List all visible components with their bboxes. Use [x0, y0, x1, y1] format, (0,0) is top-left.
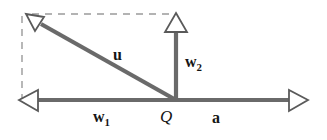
vector-a: [176, 90, 308, 111]
vector-diagram-figure: u w2 w1 a Q: [0, 0, 327, 140]
vector-label-w2-subscript: 2: [197, 61, 202, 73]
vector-a-arrowhead: [289, 90, 308, 111]
vector-label-w1: w1: [93, 109, 110, 128]
vector-label-w1-base: w: [93, 108, 105, 125]
vector-w2-arrowhead: [165, 13, 187, 32]
vector-u-arrowhead: [26, 14, 44, 31]
point-label-q: Q: [160, 108, 172, 125]
vector-label-w1-subscript: 1: [105, 116, 110, 128]
vector-label-u: u: [113, 47, 122, 63]
vector-label-a: a: [212, 110, 220, 126]
vector-w2: [165, 13, 187, 100]
vector-u-shaft: [41, 24, 176, 100]
vector-label-w2-base: w: [185, 53, 197, 70]
vector-label-w2: w2: [185, 54, 202, 73]
vector-u: [26, 14, 176, 100]
vector-w1-arrowhead: [19, 90, 38, 111]
